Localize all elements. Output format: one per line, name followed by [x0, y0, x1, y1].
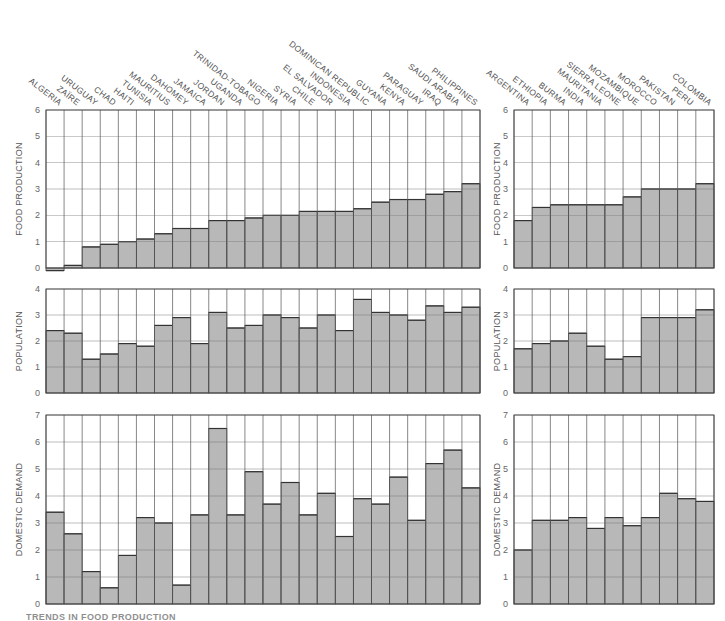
bar [173, 318, 191, 393]
bar [245, 472, 263, 604]
bar [317, 315, 335, 393]
bar [191, 229, 209, 269]
bar [191, 515, 209, 604]
bar [335, 331, 353, 393]
bar [408, 520, 426, 604]
bar [514, 349, 532, 393]
y-axis-label: FOOD PRODUCTION [492, 142, 502, 236]
y-tick: 6 [503, 437, 508, 447]
y-tick: 1 [35, 237, 40, 247]
bar [390, 315, 408, 393]
bar [532, 344, 550, 393]
y-tick: 2 [503, 336, 508, 346]
bar [444, 312, 462, 393]
bar [173, 585, 191, 604]
bar [605, 359, 623, 393]
bar [462, 184, 480, 268]
y-tick: 7 [35, 410, 40, 420]
bar [444, 450, 462, 604]
bar [118, 242, 136, 268]
bar [353, 499, 371, 604]
y-tick: 5 [35, 131, 40, 141]
bar [372, 504, 390, 604]
bar [136, 239, 154, 268]
bar [696, 310, 714, 393]
bar [678, 499, 696, 604]
y-tick: 0 [35, 263, 40, 273]
bar [426, 464, 444, 604]
bar [209, 429, 227, 605]
bar [696, 184, 714, 268]
series-population: 01234POPULATION [14, 284, 480, 398]
series-domestic-demand: 01234567DOMESTIC DEMAND [14, 410, 480, 609]
y-tick: 3 [503, 518, 508, 528]
y-tick: 2 [35, 545, 40, 555]
y-tick: 2 [35, 336, 40, 346]
y-tick: 1 [503, 362, 508, 372]
y-tick: 1 [35, 362, 40, 372]
chart-canvas: ALGERIAZAÏREURUGUAYCHADHAITITUNISIAMAURI… [0, 0, 725, 621]
bar [372, 202, 390, 268]
y-tick: 6 [35, 105, 40, 115]
bar [426, 306, 444, 393]
bar [641, 518, 659, 604]
y-tick: 4 [503, 284, 508, 294]
bar [46, 512, 64, 604]
bar [155, 234, 173, 268]
bar [569, 333, 587, 393]
bar [335, 537, 353, 605]
bar [532, 207, 550, 268]
panel-right: ARGENTINAETHIOPIABURMAINDIAMAURITANIASIE… [485, 59, 714, 609]
bar [281, 483, 299, 605]
bar [678, 318, 696, 393]
bar [173, 229, 191, 269]
y-tick: 3 [35, 184, 40, 194]
y-tick: 2 [503, 545, 508, 555]
bar [408, 200, 426, 268]
y-tick: 1 [35, 572, 40, 582]
y-axis-label: POPULATION [14, 311, 24, 371]
bar [263, 504, 281, 604]
y-tick: 5 [503, 464, 508, 474]
y-tick: 1 [503, 237, 508, 247]
y-tick: 4 [503, 158, 508, 168]
bar [155, 325, 173, 393]
series-domestic-demand: 01234567DOMESTIC DEMAND [492, 410, 714, 609]
y-tick: 0 [35, 388, 40, 398]
bar [263, 315, 281, 393]
y-tick: 3 [503, 184, 508, 194]
bar [100, 588, 118, 604]
y-tick: 0 [503, 388, 508, 398]
bar [227, 515, 245, 604]
bar [605, 518, 623, 604]
y-tick: 0 [503, 263, 508, 273]
y-tick: 3 [35, 310, 40, 320]
bar [227, 221, 245, 268]
bar [118, 555, 136, 604]
y-axis-label: FOOD PRODUCTION [14, 142, 24, 236]
y-tick: 5 [35, 464, 40, 474]
bar [623, 197, 641, 268]
y-tick: 0 [503, 599, 508, 609]
bar [514, 221, 532, 268]
y-tick: 0 [35, 599, 40, 609]
bar [462, 488, 480, 604]
bar [641, 189, 659, 268]
bar [623, 357, 641, 393]
bar [587, 528, 605, 604]
y-tick: 2 [503, 210, 508, 220]
y-tick: 2 [35, 210, 40, 220]
y-tick: 6 [35, 437, 40, 447]
bar [299, 211, 317, 268]
bar [550, 520, 568, 604]
bar [408, 320, 426, 393]
bar [317, 493, 335, 604]
bar [426, 194, 444, 268]
bar [317, 211, 335, 268]
series-food-production: 0123456FOOD PRODUCTION [14, 105, 480, 273]
bar [462, 307, 480, 393]
y-tick: 1 [503, 572, 508, 582]
bar [372, 312, 390, 393]
bar [532, 520, 550, 604]
bar [569, 518, 587, 604]
